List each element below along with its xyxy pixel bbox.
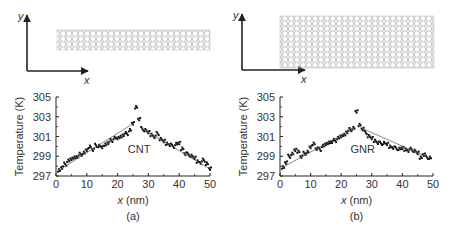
svg-text:303: 303 [33, 111, 51, 123]
data-points [57, 105, 212, 173]
svg-text:303: 303 [257, 111, 275, 123]
graphene-nanoribbon [280, 16, 434, 68]
svg-text:30: 30 [142, 178, 154, 190]
svg-text:20: 20 [111, 178, 123, 190]
y-axis-label: Temperature (K) [13, 97, 25, 176]
panel-caption: (a) [126, 210, 139, 222]
series-label: CNT [128, 143, 151, 155]
svg-text:10: 10 [304, 178, 316, 190]
svg-text:0: 0 [277, 178, 283, 190]
plot-axes: 29729930130330501020304050 [33, 91, 216, 190]
svg-text:50: 50 [204, 178, 216, 190]
x-axis-label: x (nm) [116, 194, 148, 206]
svg-text:30: 30 [366, 178, 378, 190]
svg-text:301: 301 [33, 131, 51, 143]
svg-text:20: 20 [335, 178, 347, 190]
svg-text:40: 40 [396, 178, 408, 190]
svg-text:305: 305 [257, 91, 275, 103]
svg-text:301: 301 [257, 131, 275, 143]
carbon-nanotube [57, 30, 210, 50]
svg-text:x: x [83, 74, 90, 86]
series-label: GNR [350, 143, 375, 155]
svg-text:299: 299 [33, 150, 51, 162]
svg-text:x: x [300, 73, 307, 85]
svg-text:y: y [232, 9, 240, 21]
panel-a: yx29729930130330501020304050Temperature … [13, 10, 216, 222]
svg-text:305: 305 [33, 91, 51, 103]
plot-axes: 29729930130330501020304050 [257, 91, 439, 190]
y-axis-label: Temperature (K) [237, 97, 249, 176]
svg-text:10: 10 [81, 178, 93, 190]
svg-text:0: 0 [53, 178, 59, 190]
svg-text:40: 40 [173, 178, 185, 190]
svg-text:y: y [17, 10, 25, 22]
panel-caption: (b) [350, 210, 363, 222]
x-axis-label: x (nm) [340, 194, 372, 206]
data-points [281, 109, 432, 169]
panel-b: yx29729930130330501020304050Temperature … [232, 9, 439, 222]
figure: yx29729930130330501020304050Temperature … [0, 0, 452, 232]
svg-text:297: 297 [33, 170, 51, 182]
svg-text:297: 297 [257, 170, 275, 182]
svg-text:299: 299 [257, 150, 275, 162]
svg-text:50: 50 [427, 178, 439, 190]
